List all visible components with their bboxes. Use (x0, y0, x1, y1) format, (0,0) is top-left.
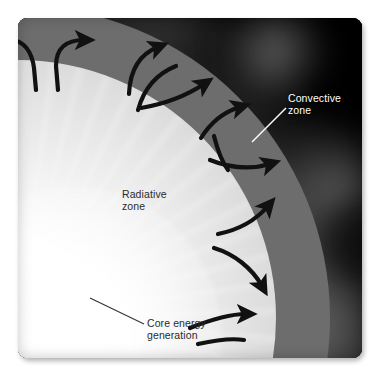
convection-arrow (18, 40, 36, 90)
solar-interior-figure: Convective zone Radiative zone Core ener… (0, 0, 379, 379)
convection-arrow (56, 40, 84, 90)
arrows-svg (18, 18, 362, 358)
annotation-overlay (18, 18, 362, 358)
convection-arrow (218, 206, 268, 234)
convection-arrow (214, 248, 262, 286)
label-radiative-zone: Radiative zone (122, 188, 167, 213)
diagram-plate (18, 18, 362, 358)
leader-line-convective (252, 108, 286, 142)
convection-arrow (201, 107, 240, 138)
leader-line-core (90, 298, 144, 324)
label-core-energy-generation: Core energy generation (147, 317, 206, 342)
convection-arrow (210, 160, 270, 167)
convection-arrow (129, 47, 158, 94)
label-convective-zone: Convective zone (288, 92, 341, 117)
